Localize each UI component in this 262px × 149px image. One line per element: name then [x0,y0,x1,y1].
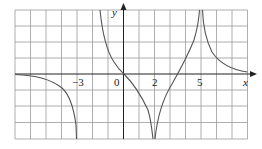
y-axis-arrow-icon [121,3,127,10]
tick-label-0: 0 [114,76,120,88]
tick-label-neg3: −3 [72,76,84,88]
x-axis-label: x [242,76,248,88]
y-axis-label: y [111,6,117,18]
graph: −3 0 2 5 y x [0,0,262,149]
axes [15,3,257,139]
tick-label-2: 2 [152,76,158,88]
curve-branch-far-right [203,10,248,72]
tick-labels: −3 0 2 5 [72,76,203,88]
tick-label-5: 5 [197,76,203,88]
x-axis-arrow-icon [250,71,257,77]
